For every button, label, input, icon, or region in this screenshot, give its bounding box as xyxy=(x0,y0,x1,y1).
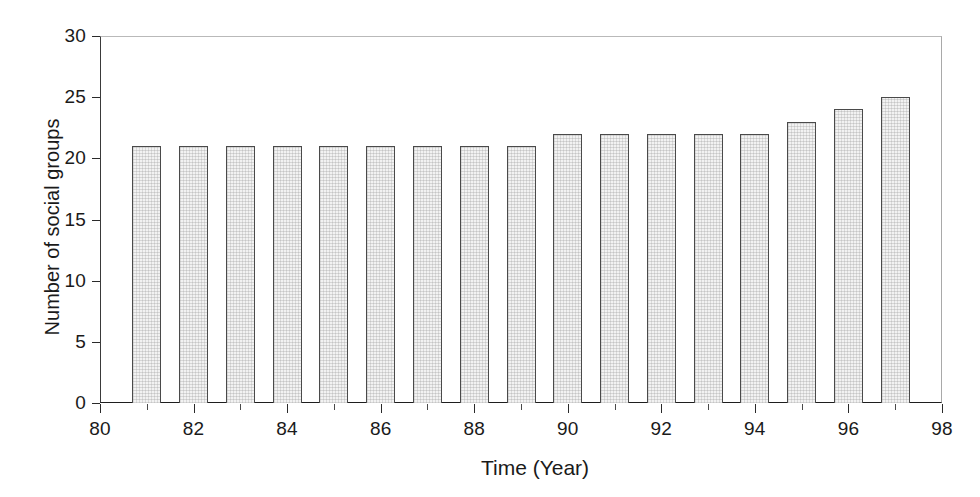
chart-figure: Number of social groups 051015202530 808… xyxy=(0,0,980,497)
y-tick-label: 25 xyxy=(64,87,86,106)
y-tick-mark xyxy=(92,36,100,37)
bar xyxy=(273,146,302,403)
bar xyxy=(834,109,863,403)
y-tick-mark xyxy=(92,403,100,404)
y-tick-mark xyxy=(92,220,100,221)
x-tick-mark-major xyxy=(194,404,195,413)
bar xyxy=(460,146,489,403)
bar xyxy=(600,134,629,403)
y-tick-mark xyxy=(92,158,100,159)
x-tick-mark-minor xyxy=(708,404,709,410)
x-tick-mark-minor xyxy=(240,404,241,410)
x-tick-mark-major xyxy=(755,404,756,413)
x-tick-mark-major xyxy=(381,404,382,413)
x-tick-mark-minor xyxy=(802,404,803,410)
x-tick-label: 92 xyxy=(631,418,691,439)
bar xyxy=(740,134,769,403)
x-tick-mark-minor xyxy=(521,404,522,410)
bar xyxy=(366,146,395,403)
x-tick-mark-major xyxy=(942,404,943,413)
bar xyxy=(319,146,348,403)
x-tick-mark-major xyxy=(568,404,569,413)
x-tick-label: 84 xyxy=(257,418,317,439)
x-tick-mark-minor xyxy=(147,404,148,410)
y-tick-label: 15 xyxy=(64,210,86,229)
x-tick-mark-minor xyxy=(427,404,428,410)
x-tick-mark-minor xyxy=(615,404,616,410)
y-tick-label: 30 xyxy=(64,26,86,45)
x-tick-mark-major xyxy=(474,404,475,413)
x-tick-label: 86 xyxy=(351,418,411,439)
x-tick-mark-major xyxy=(848,404,849,413)
x-tick-label: 88 xyxy=(444,418,504,439)
bar-series xyxy=(100,36,942,403)
bar xyxy=(787,122,816,403)
x-tick-mark-major xyxy=(100,404,101,413)
bar xyxy=(507,146,536,403)
y-tick-mark xyxy=(92,97,100,98)
y-tick-label: 10 xyxy=(64,271,86,290)
y-tick-label: 20 xyxy=(64,148,86,167)
x-tick-mark-minor xyxy=(895,404,896,410)
x-tick-label: 94 xyxy=(725,418,785,439)
bar xyxy=(647,134,676,403)
x-axis-title: Time (Year) xyxy=(0,456,980,480)
y-tick-label: 5 xyxy=(75,332,86,351)
bar xyxy=(132,146,161,403)
x-tick-label: 80 xyxy=(70,418,130,439)
bar xyxy=(694,134,723,403)
x-tick-label: 96 xyxy=(818,418,878,439)
bar xyxy=(881,97,910,403)
y-tick-mark xyxy=(92,281,100,282)
bar xyxy=(226,146,255,403)
x-tick-label: 90 xyxy=(538,418,598,439)
bar xyxy=(179,146,208,403)
x-axis-title-text: Time (Year) xyxy=(481,456,589,479)
y-tick-label: 0 xyxy=(75,393,86,412)
x-tick-mark-major xyxy=(661,404,662,413)
x-tick-mark-minor xyxy=(334,404,335,410)
x-tick-label: 82 xyxy=(164,418,224,439)
x-tick-mark-major xyxy=(287,404,288,413)
y-axis-title: Number of social groups xyxy=(41,57,63,397)
y-tick-mark xyxy=(92,342,100,343)
bar xyxy=(553,134,582,403)
bar xyxy=(413,146,442,403)
x-tick-label: 98 xyxy=(912,418,972,439)
